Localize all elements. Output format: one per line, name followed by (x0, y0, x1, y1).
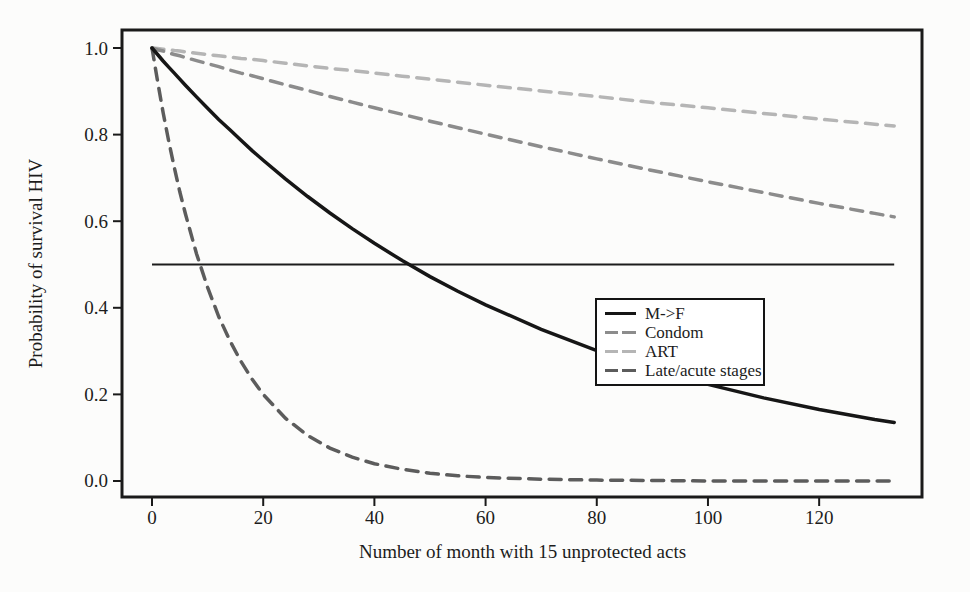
y-axis-label: Probability of survival HIV (25, 30, 49, 497)
x-tick-label: 80 (587, 507, 606, 528)
x-tick-label: 60 (476, 507, 495, 528)
x-tick-label: 120 (805, 507, 834, 528)
legend-label-late-acute-stages: Late/acute stages (645, 362, 762, 379)
legend-label-art: ART (645, 343, 678, 360)
y-tick-label: 1.0 (84, 38, 108, 59)
legend-line-sample-late-acute-stages (605, 369, 636, 373)
legend-box: M->FCondomARTLate/acute stages (595, 298, 765, 386)
survival-chart-plot: 0204060801001200.00.20.40.60.81.0 (0, 0, 970, 592)
x-tick-label: 20 (254, 507, 273, 528)
x-axis-label: Number of month with 15 unprotected acts (122, 541, 923, 563)
legend-line-sample-m-f (605, 312, 636, 316)
x-tick-label: 100 (694, 507, 723, 528)
curve-art (152, 48, 894, 126)
legend-line-sample-condom (605, 331, 636, 335)
y-tick-label: 0.8 (84, 124, 108, 145)
legend-line-sample-art (605, 350, 636, 354)
x-tick-label: 0 (147, 507, 157, 528)
legend-label-condom: Condom (645, 324, 704, 341)
y-tick-label: 0.2 (84, 384, 108, 405)
legend-item-m-f: M->F (605, 305, 759, 322)
y-tick-label: 0.6 (84, 211, 108, 232)
y-tick-label: 0.0 (84, 470, 108, 491)
legend-item-late-acute-stages: Late/acute stages (605, 362, 759, 379)
x-tick-label: 40 (365, 507, 384, 528)
curve-condom (152, 48, 894, 217)
y-tick-label: 0.4 (84, 297, 108, 318)
legend-item-art: ART (605, 343, 759, 360)
curve-m-f (152, 48, 894, 423)
legend-item-condom: Condom (605, 324, 759, 341)
legend-label-m-f: M->F (645, 305, 685, 322)
hiv-survival-figure: 0204060801001200.00.20.40.60.81.0 Probab… (0, 0, 970, 592)
